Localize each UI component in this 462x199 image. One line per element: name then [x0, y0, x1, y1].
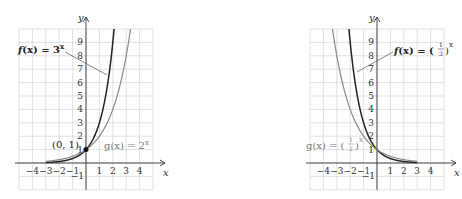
label-f: f(x) = ( — [393, 45, 434, 56]
x-tick-label: −3 — [330, 166, 344, 176]
x-tick-label: −4 — [26, 166, 40, 176]
svg-text:3: 3 — [439, 50, 443, 57]
x-tick-label: 4 — [137, 166, 143, 176]
x-tick-label: −3 — [39, 166, 53, 176]
point-label: (0, 1) — [52, 139, 79, 150]
x-tick-label: 2 — [401, 166, 407, 176]
label-f: f(x) = 3x — [17, 42, 65, 55]
x-tick-label: −2 — [344, 166, 357, 176]
y-tick-label: −1 — [71, 171, 84, 181]
chart-left: yx−4−3−2−11234−1123456789(0, 1)f(x) = 3x… — [15, 12, 169, 190]
x-tick-label: −2 — [53, 166, 66, 176]
x-axis-label: x — [454, 167, 460, 178]
y-tick-label: 3 — [77, 118, 83, 128]
y-axis-label: y — [368, 12, 375, 23]
x-axis-label: x — [163, 167, 169, 178]
chart-right: yx−4−3−2−11234−1123456789f(x) = (13)xg(x… — [306, 12, 460, 190]
y-tick-label: 7 — [368, 64, 374, 74]
svg-text:1: 1 — [439, 41, 443, 48]
label-g: g(x) = 2x — [104, 139, 149, 151]
y-tick-label: 6 — [77, 78, 83, 88]
y-tick-label: 4 — [77, 104, 83, 114]
y-tick-label: −1 — [362, 171, 375, 181]
label-g: g(x) = ( — [306, 140, 345, 151]
svg-text:x: x — [449, 41, 453, 49]
x-tick-label: 2 — [110, 166, 116, 176]
x-tick-label: 1 — [97, 166, 103, 176]
y-tick-label: 5 — [77, 91, 83, 101]
svg-text:2: 2 — [349, 145, 353, 152]
y-tick-label: 9 — [77, 37, 83, 47]
y-axis-label: y — [77, 12, 84, 23]
x-tick-label: 3 — [123, 166, 129, 176]
y-tick-label: 8 — [368, 51, 374, 61]
y-tick-label: 5 — [368, 91, 374, 101]
x-tick-label: 4 — [428, 166, 434, 176]
x-tick-label: 3 — [414, 166, 420, 176]
y-tick-label: 7 — [77, 64, 83, 74]
svg-text:1: 1 — [349, 136, 353, 143]
y-tick-label: 6 — [368, 78, 374, 88]
figure: yx−4−3−2−11234−1123456789(0, 1)f(x) = 3x… — [0, 0, 462, 199]
x-tick-label: −4 — [317, 166, 331, 176]
y-tick-label: 3 — [368, 118, 374, 128]
y-tick-label: 9 — [368, 37, 374, 47]
point-0-1 — [84, 147, 89, 152]
x-tick-label: 1 — [388, 166, 394, 176]
svg-text:x: x — [359, 136, 363, 144]
y-tick-label: 4 — [368, 104, 374, 114]
